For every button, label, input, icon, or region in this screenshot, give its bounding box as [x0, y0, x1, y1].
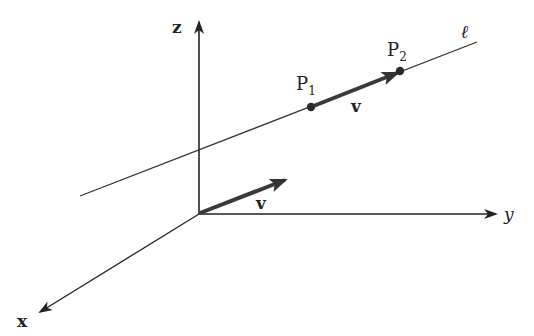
vector-v-origin [200, 180, 285, 213]
y-axis-label: y [503, 204, 514, 224]
point-p1 [307, 103, 315, 111]
line-l-label: ℓ [461, 21, 469, 42]
p1-label-name: P [296, 73, 308, 94]
p2-label-name: P [387, 39, 399, 60]
p1-label-sub: 1 [308, 84, 316, 98]
vector-v-origin-label: v [255, 193, 267, 213]
p1-label: P1 [296, 73, 316, 98]
z-axis-label: z [172, 17, 182, 37]
p2-label-sub: 2 [399, 50, 407, 64]
diagram-canvas: z y x ℓ P1 P2 v v [0, 0, 534, 336]
vector-v-on-line-label: v [350, 96, 362, 116]
diagram-svg: z y x ℓ P1 P2 v v [0, 0, 534, 336]
x-axis [40, 214, 199, 312]
p2-label: P2 [387, 39, 407, 64]
point-p2 [396, 67, 404, 75]
x-axis-label: x [17, 311, 28, 331]
line-l [80, 42, 477, 196]
